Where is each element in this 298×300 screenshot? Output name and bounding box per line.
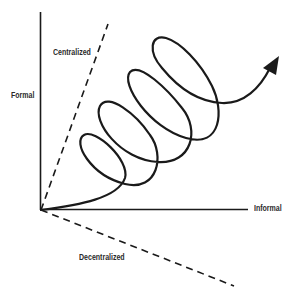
formal-label: Formal: [11, 91, 34, 100]
centralized-label: Centralized: [53, 48, 91, 57]
decentralized-dashed-line: [41, 210, 234, 286]
organization-spiral-diagram: Formal Centralized Informal Decentralize…: [0, 0, 298, 300]
spiral-arrow-path: [41, 37, 270, 210]
decentralized-label: Decentralized: [79, 253, 125, 262]
arrowhead-icon: [263, 56, 279, 75]
informal-label: Informal: [254, 204, 282, 213]
